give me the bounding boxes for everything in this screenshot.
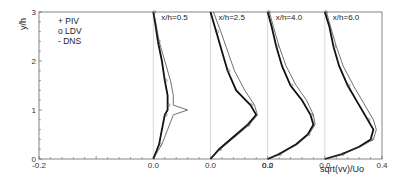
dns-curve xyxy=(325,12,377,159)
x-tick-label: 0.4 xyxy=(376,161,388,170)
y-axis-label: y/h xyxy=(18,18,28,30)
legend-item-piv: + PIV xyxy=(58,16,79,26)
x-tick-label: 0.0 xyxy=(205,161,217,170)
profile-label: x/h=0.5 xyxy=(161,13,188,22)
x-tick-label: 0.2 xyxy=(262,161,274,170)
piv-curve xyxy=(268,12,314,159)
profile-label: x/h=2.5 xyxy=(219,13,246,22)
tick-labels: -0.20.00.00.00.00.20.40123 xyxy=(32,8,389,170)
y-tick-label: 0 xyxy=(32,155,37,164)
y-tick-label: 3 xyxy=(32,8,37,17)
legend-item-dns: - DNS xyxy=(58,36,81,46)
legend-item-ldv: o LDV xyxy=(58,26,82,36)
piv-curve xyxy=(153,12,167,159)
y-tick-label: 2 xyxy=(32,57,37,66)
legend: + PIV o LDV - DNS xyxy=(58,16,82,46)
y-tick-label: 1 xyxy=(32,106,37,115)
chart-canvas: -0.20.00.00.00.00.20.40123 x/h=0.5x/h=2.… xyxy=(0,0,406,180)
profile-labels: x/h=0.5x/h=2.5x/h=4.0x/h=6.0 xyxy=(161,13,360,22)
profile-label: x/h=6.0 xyxy=(333,13,360,22)
piv-curve xyxy=(325,12,374,159)
x-tick-label: 0.0 xyxy=(148,161,160,170)
profile-label: x/h=4.0 xyxy=(276,13,303,22)
x-axis-label: sqrt(vv)/Uo xyxy=(320,164,364,174)
profile-curves xyxy=(153,11,376,159)
dns-curve xyxy=(153,12,187,159)
piv-curve xyxy=(211,12,257,159)
